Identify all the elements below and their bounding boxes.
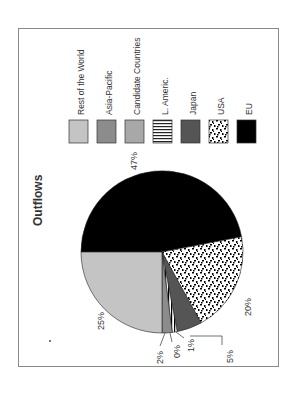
legend-label-eu: EU (244, 103, 254, 115)
slice-eu (81, 171, 242, 252)
legend-label-rotw: Rest of the World (76, 49, 86, 115)
legend-label-lam: L. Americ. (160, 77, 170, 115)
legend-swatch-rotw (69, 120, 88, 143)
chart-title: Outflows (31, 174, 45, 226)
label-rotw: 25% (96, 312, 106, 330)
legend-swatch-eu (237, 120, 256, 143)
legend-label-usa: USA (216, 97, 226, 115)
label-lam: 1% (186, 339, 196, 352)
label-cand: 0% (172, 345, 182, 358)
legend-swatch-asia (97, 120, 116, 143)
legend-swatch-japan (181, 120, 200, 143)
label-asia: 2% (155, 351, 165, 364)
legend-swatch-cand (125, 120, 144, 143)
legend-swatch-usa (209, 120, 228, 143)
legend-label-cand: Candidate Countries (132, 38, 142, 116)
label-japan: 5% (225, 350, 235, 363)
slice-rest-of-world (81, 252, 162, 333)
label-usa: 20% (243, 298, 253, 316)
legend-label-asia: Asia-Pacific (104, 70, 114, 115)
legend-swatch-lam (153, 120, 172, 143)
pie-chart: Outflows 47% 25% 20% 2% 0% 1% 5% (0, 0, 295, 400)
label-eu: 47% (129, 152, 139, 170)
legend-label-japan: Japan (188, 92, 198, 115)
